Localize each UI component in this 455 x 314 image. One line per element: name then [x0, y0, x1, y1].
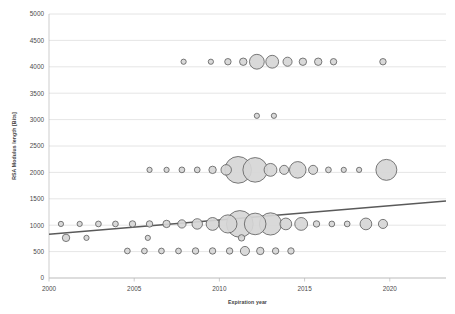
y-tick-label: 3000: [30, 116, 45, 123]
bubble-point-1024: [77, 221, 82, 226]
x-axis-title: Expiration year: [228, 299, 267, 305]
bubble-point-4096: [299, 58, 306, 65]
bubble-point-4096: [283, 57, 292, 66]
bubble-point-1024: [113, 221, 119, 227]
y-tick-label: 2500: [30, 142, 45, 149]
bubble-point-2048: [376, 159, 397, 180]
y-tick-label: 5000: [30, 10, 45, 17]
bubble-point-4096: [225, 59, 231, 65]
chart-canvas: 0500100015002000250030003500400045005000…: [0, 0, 455, 314]
bubble-point-1024: [344, 221, 350, 227]
bubble-point-768: [238, 235, 244, 241]
bubble-point-2048: [209, 166, 216, 173]
bubble-point-2048: [264, 163, 277, 176]
bubble-point-512: [176, 248, 182, 254]
x-tick-label: 2000: [42, 285, 57, 292]
y-tick-label: 4500: [30, 37, 45, 44]
bubble-point-768: [145, 235, 150, 240]
bubble-point-4096: [208, 59, 213, 64]
bubble-point-2048: [341, 167, 346, 172]
bubble-point-4096: [330, 59, 336, 65]
bubble-point-768: [62, 234, 69, 241]
bubble-point-2048: [289, 162, 306, 179]
x-tick-label: 2020: [383, 285, 398, 292]
y-axis-title: RSA Modulus length [Bits]: [11, 112, 17, 180]
bubble-point-2048: [309, 165, 318, 174]
x-tick-label: 2015: [297, 285, 312, 292]
bubble-point-512: [240, 246, 249, 255]
bubble-point-1024: [163, 220, 170, 227]
bubble-point-2048: [356, 167, 361, 172]
bubble-point-2048: [326, 167, 332, 173]
bubble-point-768: [84, 235, 89, 240]
bubble-point-1024: [360, 218, 372, 230]
bubble-point-1024: [244, 213, 266, 235]
bubble-point-1024: [58, 221, 63, 226]
x-tick-label: 2005: [127, 285, 142, 292]
bubble-point-1024: [295, 218, 308, 231]
bubble-point-1024: [96, 221, 102, 227]
y-tick-labels-group: 0500100015002000250030003500400045005000: [30, 10, 45, 281]
bubble-chart: 0500100015002000250030003500400045005000…: [0, 0, 455, 314]
bubble-point-512: [159, 248, 165, 254]
bubble-point-2048: [194, 167, 200, 173]
y-tick-label: 1000: [30, 222, 45, 229]
bubble-point-2048: [147, 167, 152, 172]
bubble-point-1024: [219, 215, 237, 233]
bubble-point-4096: [249, 54, 264, 69]
bubble-point-2048: [280, 165, 289, 174]
bubble-point-512: [142, 248, 148, 254]
y-tick-label: 0: [40, 274, 44, 281]
bubble-point-4096: [315, 58, 322, 65]
bubble-point-2048: [179, 167, 185, 173]
bubble-point-1024: [178, 220, 186, 228]
bubble-point-2048: [164, 167, 169, 172]
bubble-point-512: [257, 247, 264, 254]
bubble-point-1024: [146, 221, 152, 227]
bubble-point-1024: [206, 218, 219, 231]
bubble-point-4096: [380, 59, 386, 65]
bubble-point-1024: [129, 221, 135, 227]
y-tick-label: 500: [33, 248, 44, 255]
bubble-point-2048: [221, 165, 231, 175]
bubble-point-4096: [266, 55, 279, 68]
bubble-point-512: [209, 248, 215, 254]
bubble-point-1024: [329, 221, 335, 227]
gridlines-group: [49, 14, 446, 278]
x-tick-labels-group: 20002005201020152020: [42, 285, 397, 292]
x-tick-label: 2010: [212, 285, 227, 292]
bubble-point-1024: [192, 219, 202, 229]
bubble-point-512: [226, 248, 232, 254]
y-tick-label: 1500: [30, 195, 45, 202]
bubble-point-512: [125, 248, 131, 254]
bubble-point-512: [288, 248, 294, 254]
y-tick-label: 2000: [30, 169, 45, 176]
y-tick-label: 4000: [30, 63, 45, 70]
y-tick-label: 3500: [30, 90, 45, 97]
bubble-point-3072: [254, 113, 259, 118]
bubble-point-3072: [271, 113, 276, 118]
bubble-point-1024: [280, 218, 292, 230]
bubble-point-512: [272, 248, 278, 254]
bubble-point-1024: [378, 219, 387, 228]
bubble-point-512: [192, 248, 198, 254]
bubble-point-4096: [240, 58, 247, 65]
bubble-point-1024: [313, 221, 319, 227]
x-tick-marks-group: [49, 278, 390, 282]
bubble-point-4096: [181, 59, 186, 64]
